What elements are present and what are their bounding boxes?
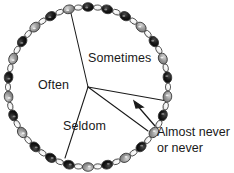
bead-light [62,4,75,15]
bead-dark [162,71,172,83]
bead-light [162,91,172,103]
bead-highlight [125,156,128,158]
bead-highlight [161,113,164,115]
bead-link [165,83,170,91]
bead-link [93,5,102,11]
bead-dark [101,159,114,170]
bead-highlight [107,163,110,165]
bead-highlight [35,146,38,148]
bead-highlight [48,16,51,18]
bead-light [4,91,14,103]
pie-slice-label-almost-never: Almost never or never [157,124,230,157]
divider-almostnever-sometimes [88,87,167,101]
bead-link [74,5,83,11]
bead-highlight [88,166,91,168]
bead-highlight [122,15,125,17]
bead-dark [4,71,14,83]
callout-line-1: Almost never [157,124,230,140]
bead-highlight [13,116,16,118]
callout-line-2: or never [157,140,230,156]
bead-light [82,163,93,172]
bead-dark [7,109,19,123]
bead-link [74,163,83,169]
bead-light [7,52,19,66]
bead-light [157,52,169,66]
bead-highlight [140,145,143,147]
beaded-pie-chart-figure: Often Sometimes Seldom Almost never or n… [0,0,234,173]
bead-highlight [33,27,36,29]
bead-link [7,102,14,111]
divider-often-sometimes [70,9,88,87]
bead-link [162,102,169,111]
bead-highlight [153,130,156,132]
bead-highlight [104,9,107,11]
bead-link [5,83,10,91]
bead-link [7,63,14,72]
bead-highlight [165,75,168,77]
bead-highlight [7,78,10,80]
bead-highlight [66,9,69,11]
bead-highlight [51,157,54,159]
bead-highlight [151,40,154,42]
pie-slice-label-sometimes: Sometimes [88,51,151,66]
bead-highlight [166,94,169,96]
callout-arrow-icon [134,101,155,126]
bead-dark [157,109,169,123]
bead-highlight [85,7,88,9]
bead-highlight [8,97,11,99]
bead-highlight [160,57,163,59]
bead-highlight [138,26,141,28]
pie-slice-label-seldom: Seldom [63,119,106,134]
bead-dark [82,3,93,12]
bead-link [93,163,102,169]
bead-link [162,63,169,72]
bead-highlight [12,59,15,61]
bead-highlight [22,132,25,134]
bead-highlight [20,42,23,44]
pie-slice-label-often: Often [38,78,69,93]
bead-highlight [69,164,72,166]
